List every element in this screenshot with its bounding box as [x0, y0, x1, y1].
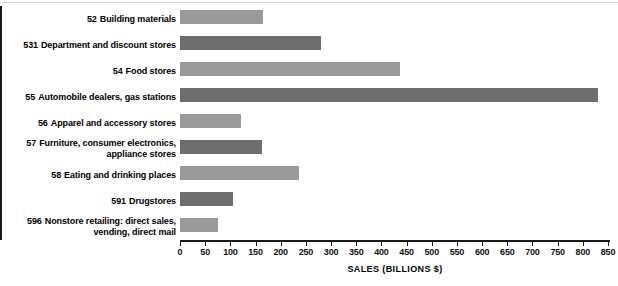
bar — [180, 36, 321, 50]
x-axis-tick — [306, 240, 307, 246]
x-axis-tick-label: 850 — [601, 247, 615, 257]
bar-row — [0, 6, 618, 32]
x-axis-tick-label: 50 — [200, 247, 210, 257]
bar-row — [0, 188, 618, 214]
x-axis-tick-label: 250 — [299, 247, 313, 257]
x-axis-tick — [457, 240, 458, 246]
x-axis-tick-label: 750 — [550, 247, 564, 257]
x-axis-tick-label: 550 — [450, 247, 464, 257]
bar — [180, 62, 400, 76]
x-axis-tick-label: 450 — [399, 247, 413, 257]
bar-row — [0, 110, 618, 136]
x-axis-tick — [608, 240, 609, 246]
x-axis-tick-label: 150 — [248, 247, 262, 257]
sales-by-retail-category-bar-chart: 52Building materials531Department and di… — [0, 0, 618, 286]
bar-row — [0, 162, 618, 188]
bar — [180, 88, 598, 102]
x-axis-tick — [180, 240, 181, 246]
bar — [180, 192, 233, 206]
x-axis-tick-label: 800 — [576, 247, 590, 257]
x-axis-tick — [205, 240, 206, 246]
x-axis-line — [180, 240, 610, 242]
x-axis-tick — [381, 240, 382, 246]
x-axis-tick-label: 500 — [425, 247, 439, 257]
bar — [180, 166, 299, 180]
x-axis-tick — [532, 240, 533, 246]
x-axis-tick — [256, 240, 257, 246]
x-axis-tick-label: 100 — [223, 247, 237, 257]
x-axis-tick — [482, 240, 483, 246]
bar-row — [0, 32, 618, 58]
x-axis-tick — [331, 240, 332, 246]
x-axis-tick-label: 200 — [273, 247, 287, 257]
x-axis-tick-label: 350 — [349, 247, 363, 257]
x-axis-tick-label: 0 — [178, 247, 183, 257]
top-divider-rule — [0, 2, 618, 3]
x-axis-tick-label: 650 — [500, 247, 514, 257]
bar-row — [0, 84, 618, 110]
x-axis-tick — [507, 240, 508, 246]
x-axis-tick — [432, 240, 433, 246]
x-axis-tick-label: 600 — [475, 247, 489, 257]
x-axis-tick — [356, 240, 357, 246]
bar — [180, 218, 218, 232]
x-axis-title: SALES (BILLIONS $) — [180, 264, 610, 274]
x-axis-tick — [583, 240, 584, 246]
bar-row — [0, 58, 618, 84]
x-axis-tick — [281, 240, 282, 246]
x-axis-tick-label: 700 — [525, 247, 539, 257]
x-axis-tick-label: 400 — [374, 247, 388, 257]
x-axis-tick-label: 300 — [324, 247, 338, 257]
x-axis-tick — [558, 240, 559, 246]
x-axis-tick — [407, 240, 408, 246]
bar-row — [0, 214, 618, 240]
bar — [180, 140, 262, 154]
bar — [180, 114, 241, 128]
x-axis-tick — [230, 240, 231, 246]
bar — [180, 10, 263, 24]
bar-row — [0, 136, 618, 162]
